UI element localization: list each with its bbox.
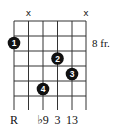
muted-string-2-marker: x bbox=[26, 8, 32, 18]
interval-label-third: 3 bbox=[55, 113, 61, 127]
finger-dot-4: 4 bbox=[37, 83, 50, 96]
finger-dot-3: 3 bbox=[66, 68, 79, 81]
fret-lines bbox=[14, 21, 86, 96]
finger-number: 1 bbox=[12, 38, 17, 48]
muted-string-6-marker: x bbox=[83, 8, 89, 18]
chord-diagram: x x 8 fr. 1 2 3 4 R ♭9 3 13 bbox=[0, 0, 118, 131]
fret-position-label: 8 fr. bbox=[92, 37, 110, 49]
finger-dot-1: 1 bbox=[8, 37, 21, 50]
finger-number: 2 bbox=[55, 54, 60, 64]
finger-number: 4 bbox=[41, 84, 46, 94]
interval-label-flat9: ♭9 bbox=[37, 113, 49, 127]
finger-dot-2: 2 bbox=[51, 52, 64, 65]
interval-label-thirteenth: 13 bbox=[66, 113, 78, 127]
interval-label-root: R bbox=[10, 113, 18, 127]
finger-number: 3 bbox=[70, 69, 75, 79]
